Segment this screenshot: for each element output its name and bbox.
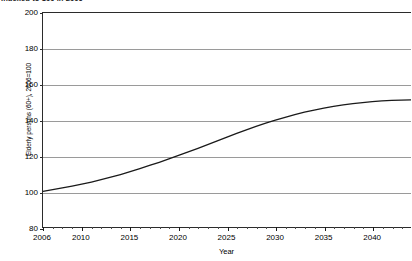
x-axis-major-tick — [228, 227, 229, 231]
x-axis-minor-tick — [150, 227, 151, 229]
x-axis-major-tick — [82, 227, 83, 231]
x-axis-title: Year — [42, 247, 411, 256]
x-axis-major-tick — [43, 227, 44, 231]
y-axis-tick-label: 120 — [14, 152, 38, 161]
x-axis-tick-marks — [43, 227, 411, 231]
x-axis-tick-label: 2006 — [33, 233, 51, 242]
x-axis-minor-tick — [72, 227, 73, 229]
x-axis-minor-tick — [286, 227, 287, 229]
y-axis-tick-label: 80 — [14, 224, 38, 233]
x-axis-minor-tick — [344, 227, 345, 229]
y-axis-tick-labels: 20018016014012010080 — [14, 0, 38, 261]
x-axis-minor-tick — [354, 227, 355, 229]
chart-page: Indexed to 100 in 2006 Elderly persons (… — [0, 0, 412, 261]
x-axis-tick-label: 2035 — [315, 233, 333, 242]
x-axis-minor-tick — [169, 227, 170, 229]
x-axis-minor-tick — [198, 227, 199, 229]
x-axis-minor-tick — [295, 227, 296, 229]
x-axis-major-tick — [179, 227, 180, 231]
x-axis-minor-tick — [53, 227, 54, 229]
x-axis-major-tick — [130, 227, 131, 231]
series-path — [43, 100, 411, 191]
x-axis-tick-label: 2010 — [72, 233, 90, 242]
x-axis-tick-label: 2030 — [266, 233, 284, 242]
x-axis-major-tick — [373, 227, 374, 231]
x-axis-minor-tick — [237, 227, 238, 229]
y-axis-tick-label: 180 — [14, 44, 38, 53]
x-axis-minor-tick — [160, 227, 161, 229]
x-axis-minor-tick — [140, 227, 141, 229]
x-axis-minor-tick — [315, 227, 316, 229]
plot-area — [42, 12, 411, 228]
x-axis-tick-label: 2015 — [120, 233, 138, 242]
x-axis-minor-tick — [62, 227, 63, 229]
x-axis-minor-tick — [402, 227, 403, 229]
x-axis-tick-labels: 20062010201520202025203020352040 — [42, 233, 411, 245]
x-axis-minor-tick — [208, 227, 209, 229]
x-axis-minor-tick — [305, 227, 306, 229]
x-axis-minor-tick — [218, 227, 219, 229]
y-axis-tick-label: 140 — [14, 116, 38, 125]
x-axis-minor-tick — [111, 227, 112, 229]
x-axis-minor-tick — [247, 227, 248, 229]
x-axis-minor-tick — [393, 227, 394, 229]
series-line — [43, 13, 411, 227]
y-axis-tick-label: 100 — [14, 188, 38, 197]
x-axis-minor-tick — [257, 227, 258, 229]
x-axis-tick-label: 2020 — [169, 233, 187, 242]
y-axis-tick-label: 200 — [14, 8, 38, 17]
x-axis-minor-tick — [92, 227, 93, 229]
x-axis-major-tick — [276, 227, 277, 231]
x-axis-minor-tick — [189, 227, 190, 229]
x-axis-major-tick — [325, 227, 326, 231]
x-axis-minor-tick — [363, 227, 364, 229]
y-axis-tick-label: 160 — [14, 80, 38, 89]
x-axis-minor-tick — [383, 227, 384, 229]
x-axis-tick-label: 2040 — [363, 233, 381, 242]
x-axis-minor-tick — [101, 227, 102, 229]
x-axis-minor-tick — [334, 227, 335, 229]
x-axis-minor-tick — [266, 227, 267, 229]
x-axis-minor-tick — [121, 227, 122, 229]
x-axis-tick-label: 2025 — [218, 233, 236, 242]
